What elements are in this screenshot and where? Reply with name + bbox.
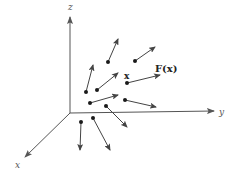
point-dot (79, 120, 83, 124)
vector-2 (133, 47, 155, 63)
y-axis (70, 111, 214, 113)
vector-5 (125, 75, 160, 85)
point-dot (104, 104, 108, 108)
vector-8 (104, 104, 127, 127)
arrow-icon (125, 100, 156, 107)
arrow-icon (93, 118, 110, 150)
x-axis (25, 113, 70, 157)
axes: z y x (15, 2, 225, 170)
point-label: x (124, 71, 130, 81)
point-dot (106, 60, 110, 64)
point-dot (91, 116, 95, 120)
point-dot (123, 98, 127, 102)
arrow-icon (90, 95, 118, 103)
arrow-icon (108, 39, 118, 62)
point-dot (133, 59, 137, 63)
arrow-icon (135, 47, 155, 61)
arrow-icon (127, 75, 160, 83)
field-label: F(x) (155, 63, 178, 74)
point-dot (84, 90, 88, 94)
vector-1 (106, 39, 118, 64)
vector-field-diagram: z y x x F(x) (0, 0, 235, 178)
vector-4 (95, 73, 118, 92)
arrow-icon (106, 106, 127, 127)
point-dot (95, 88, 99, 92)
x-axis-label: x (15, 160, 20, 170)
vector-field (79, 39, 160, 150)
z-axis-label: z (67, 2, 73, 12)
arrow-icon (80, 122, 81, 150)
arrow-icon (97, 73, 118, 90)
vector-3 (84, 65, 93, 94)
point-dot (125, 81, 129, 85)
vector-7 (123, 98, 156, 107)
arrow-icon (86, 65, 93, 92)
vector-9 (79, 120, 83, 150)
vector-6 (88, 95, 118, 105)
point-dot (88, 101, 92, 105)
vector-10 (91, 116, 110, 150)
y-axis-label: y (218, 107, 225, 117)
